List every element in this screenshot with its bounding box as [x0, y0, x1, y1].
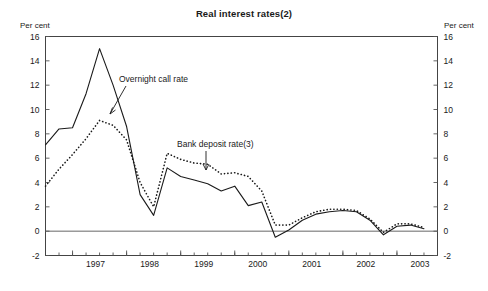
y-tick-label-right: 6	[444, 153, 449, 163]
series-bank-deposit-rate	[46, 120, 424, 232]
x-tick-label: 1997	[86, 259, 105, 269]
chart-plot: -2-2002244668810101212141416161997199819…	[0, 0, 488, 291]
chart-page: Real interest rates(2) Per cent Per cent…	[0, 0, 488, 291]
x-tick-label: 2001	[302, 259, 321, 269]
y-tick-label-right: 2	[444, 202, 449, 212]
y-tick-label-right: 16	[444, 32, 454, 42]
y-tick-label-left: 0	[35, 226, 40, 236]
y-tick-label-left: 16	[30, 32, 40, 42]
annotation-arrow-overnight	[110, 86, 126, 114]
x-tick-label: 2000	[248, 259, 267, 269]
y-tick-label-left: 12	[30, 80, 40, 90]
x-tick-label: 1999	[194, 259, 213, 269]
y-tick-label-right: 10	[444, 105, 454, 115]
x-tick-label: 2003	[410, 259, 429, 269]
x-tick-label: 1998	[140, 259, 159, 269]
y-tick-label-left: 2	[35, 202, 40, 212]
annotation-bank-deposit-rate: Bank deposit rate(3)	[177, 139, 254, 149]
y-tick-label-left: -2	[32, 251, 40, 261]
y-tick-label-left: 14	[30, 56, 40, 66]
y-tick-label-left: 8	[35, 129, 40, 139]
y-tick-label-right: -2	[444, 251, 452, 261]
y-tick-label-left: 4	[35, 178, 40, 188]
y-tick-label-left: 6	[35, 153, 40, 163]
y-tick-label-right: 4	[444, 178, 449, 188]
y-tick-label-right: 12	[444, 80, 454, 90]
y-tick-label-right: 8	[444, 129, 449, 139]
y-tick-label-right: 0	[444, 226, 449, 236]
x-tick-label: 2002	[356, 259, 375, 269]
annotation-overnight-call-rate: Overnight call rate	[119, 74, 188, 84]
y-tick-label-right: 14	[444, 56, 454, 66]
y-tick-label-left: 10	[30, 105, 40, 115]
